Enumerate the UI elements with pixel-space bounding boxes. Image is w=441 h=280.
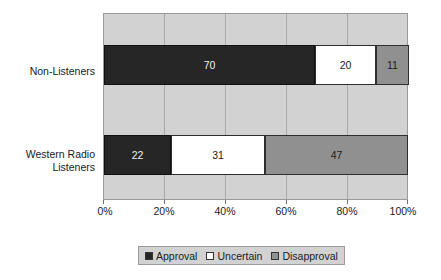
x-tick-label-100: 100% — [390, 205, 417, 217]
category-label-non-listeners: Non-Listeners — [0, 65, 95, 78]
legend-label-approval: Approval — [156, 250, 197, 262]
bar-western-radio-listeners: 22 31 47 — [104, 135, 408, 175]
legend-swatch-uncertain-icon — [206, 252, 214, 260]
bar-non-listeners: 70 20 11 — [104, 45, 409, 85]
bar-value-label: 20 — [340, 59, 352, 71]
legend-item-approval[interactable]: Approval — [145, 250, 197, 262]
x-tick-mark-80 — [347, 200, 348, 204]
plot-area: 70 20 11 22 31 47 — [103, 13, 408, 200]
x-tick-label-40: 40% — [214, 205, 235, 217]
bar-segment-disapproval[interactable]: 11 — [376, 45, 409, 85]
x-tick-mark-60 — [286, 200, 287, 204]
legend-item-uncertain[interactable]: Uncertain — [206, 250, 262, 262]
bar-value-label: 11 — [387, 59, 398, 71]
x-tick-label-20: 20% — [153, 205, 174, 217]
bar-segment-uncertain[interactable]: 20 — [315, 45, 376, 85]
legend-swatch-approval-icon — [145, 252, 153, 260]
x-tick-label-60: 60% — [275, 205, 296, 217]
chart-legend: Approval Uncertain Disapproval — [138, 246, 345, 265]
bar-value-label: 22 — [132, 149, 144, 161]
category-axis: Non-Listeners Western Radio Listeners — [0, 13, 99, 200]
bar-segment-uncertain[interactable]: 31 — [171, 135, 265, 175]
bar-segment-approval[interactable]: 22 — [104, 135, 171, 175]
bar-value-label: 47 — [331, 149, 343, 161]
category-label-line-2: Listeners — [0, 161, 95, 174]
legend-item-disapproval[interactable]: Disapproval — [271, 250, 337, 262]
legend-label-disapproval: Disapproval — [282, 250, 337, 262]
bar-segment-approval[interactable]: 70 — [104, 45, 315, 85]
bar-value-label: 70 — [204, 59, 216, 71]
category-label-line-1: Non-Listeners — [0, 65, 95, 78]
bar-segment-disapproval[interactable]: 47 — [265, 135, 408, 175]
x-tick-mark-100 — [407, 200, 408, 204]
x-tick-mark-40 — [225, 200, 226, 204]
x-tick-mark-0 — [103, 200, 104, 204]
legend-label-uncertain: Uncertain — [217, 250, 262, 262]
bar-value-label: 31 — [212, 149, 224, 161]
x-tick-mark-20 — [164, 200, 165, 204]
x-tick-label-80: 80% — [336, 205, 357, 217]
category-label-line-1: Western Radio — [0, 148, 95, 161]
category-label-western-radio-listeners: Western Radio Listeners — [0, 148, 95, 174]
stacked-bar-chart: Non-Listeners Western Radio Listeners 70… — [0, 0, 441, 280]
legend-swatch-disapproval-icon — [271, 252, 279, 260]
x-tick-label-0: 0% — [97, 205, 112, 217]
x-axis: 0% 20% 40% 60% 80% 100% — [103, 200, 408, 220]
